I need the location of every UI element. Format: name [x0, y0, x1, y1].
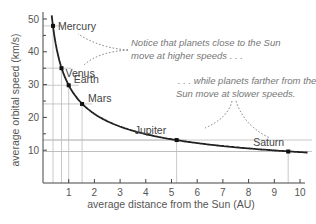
y-axis-label: average orbital speed (km/s) [9, 33, 21, 166]
arrow-to-mercury [78, 34, 128, 50]
planet-label-earth: Earth [74, 73, 99, 85]
x-tick-label: 6 [194, 187, 200, 198]
x-tick-label: 9 [272, 187, 278, 198]
planet-marker-earth [67, 83, 71, 87]
x-tick-label: 2 [92, 187, 98, 198]
x-tick-label: 10 [294, 187, 306, 198]
x-tick-label: 4 [143, 187, 149, 198]
x-tick-label: 1 [66, 187, 72, 198]
x-axis-label: average distance from the Sun (AU) [87, 198, 255, 210]
planet-label-jupiter: Jupiter [135, 124, 167, 136]
y-tick-label: 20 [28, 112, 40, 123]
x-tick-label: 8 [246, 187, 252, 198]
y-tick-label: 40 [28, 46, 40, 57]
arrow-to-jupiter [205, 101, 232, 128]
annotation-close-line2: move at higher speeds . . . [131, 50, 243, 61]
x-tick-label: 5 [169, 187, 175, 198]
orbital-speed-chart: 123456789101020304050 MercuryVenusEarthM… [0, 0, 316, 224]
arrow-to-venus [84, 50, 128, 65]
annotation-close-line1: Notice that planets close to the Sun [131, 37, 280, 48]
planet-marker-mars [80, 102, 84, 106]
y-tick-label: 30 [28, 79, 40, 90]
planet-label-mars: Mars [88, 92, 111, 104]
x-tick-label: 3 [117, 187, 123, 198]
planet-label-mercury: Mercury [58, 20, 97, 32]
arrow-to-saturn [236, 101, 270, 138]
y-tick-label: 50 [28, 14, 40, 25]
annotation-far-line1: . . . while planets farther from the [178, 75, 316, 86]
annotation-far-line2: Sun move at slower speeds. [176, 88, 295, 99]
planet-marker-jupiter [175, 138, 179, 142]
planet-marker-saturn [286, 150, 290, 154]
y-tick-label: 10 [28, 145, 40, 156]
x-tick-label: 7 [220, 187, 226, 198]
planet-marker-venus [60, 66, 64, 70]
planet-marker-mercury [51, 24, 55, 28]
